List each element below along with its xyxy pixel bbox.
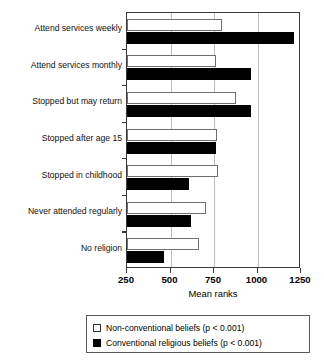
x-tick-label: 500 bbox=[161, 274, 177, 285]
bar-chart: Attend services weeklyAttend services mo… bbox=[0, 0, 324, 360]
bar bbox=[127, 178, 189, 190]
y-axis-tick bbox=[122, 85, 127, 86]
gridline bbox=[258, 13, 259, 267]
category-label: Stopped after age 15 bbox=[0, 133, 122, 143]
x-tick-labels: 25050075010001250 bbox=[0, 274, 324, 288]
bar bbox=[127, 238, 199, 250]
bar bbox=[127, 55, 216, 67]
category-label: Stopped in childhood bbox=[0, 170, 122, 180]
x-axis-tick bbox=[213, 268, 214, 273]
bar bbox=[127, 68, 251, 80]
y-axis-tick bbox=[122, 122, 127, 123]
x-axis-tick bbox=[170, 268, 171, 273]
x-axis-tick bbox=[257, 268, 258, 273]
legend-item-conventional: Conventional religious beliefs (p < 0.00… bbox=[93, 335, 303, 350]
bar bbox=[127, 165, 218, 177]
chart-legend: Non-conventional beliefs (p < 0.001) Con… bbox=[86, 315, 310, 353]
legend-item-non-conventional: Non-conventional beliefs (p < 0.001) bbox=[93, 320, 303, 335]
bar bbox=[127, 19, 222, 31]
y-axis-tick bbox=[122, 158, 127, 159]
bar bbox=[127, 129, 217, 141]
category-label: Stopped but may return bbox=[0, 96, 122, 106]
legend-swatch-white-square bbox=[93, 324, 101, 332]
x-axis-tick bbox=[126, 268, 127, 273]
bar bbox=[127, 202, 206, 214]
x-tick-label: 1000 bbox=[246, 274, 267, 285]
legend-label-non-conventional: Non-conventional beliefs (p < 0.001) bbox=[106, 323, 244, 333]
category-axis-labels: Attend services weeklyAttend services mo… bbox=[0, 10, 122, 268]
legend-label-conventional: Conventional religious beliefs (p < 0.00… bbox=[106, 338, 262, 348]
x-tick-label: 1250 bbox=[289, 274, 310, 285]
x-axis-tick bbox=[300, 268, 301, 273]
bar bbox=[127, 92, 236, 104]
x-axis-title: Mean ranks bbox=[126, 288, 300, 299]
y-axis-tick bbox=[122, 231, 127, 232]
plot-area bbox=[126, 12, 300, 268]
bar bbox=[127, 215, 191, 227]
category-label: Attend services monthly bbox=[0, 60, 122, 70]
category-label: Attend services weekly bbox=[0, 23, 122, 33]
bar bbox=[127, 32, 294, 44]
y-axis-tick bbox=[122, 195, 127, 196]
legend-swatch-black-square bbox=[93, 339, 101, 347]
category-label: Never attended regularly bbox=[0, 206, 122, 216]
y-axis-tick bbox=[122, 49, 127, 50]
bar bbox=[127, 251, 164, 263]
bar bbox=[127, 142, 216, 154]
x-tick-label: 250 bbox=[118, 274, 134, 285]
bar bbox=[127, 105, 251, 117]
category-label: No religion bbox=[0, 243, 122, 253]
x-tick-label: 750 bbox=[205, 274, 221, 285]
